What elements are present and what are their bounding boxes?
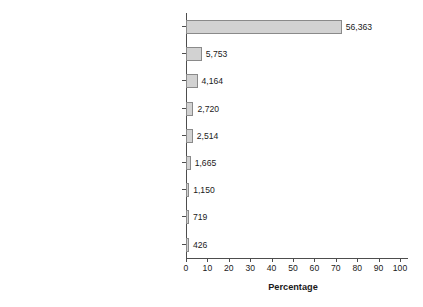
bar-row: Industrial5,753 bbox=[186, 47, 400, 61]
x-axis-tick bbox=[336, 258, 337, 262]
bar-value-label: 56,363 bbox=[346, 20, 372, 34]
bar-row: Personal service (domestic and other)4,1… bbox=[186, 74, 400, 88]
x-axis-tick bbox=[357, 258, 358, 262]
bar bbox=[186, 156, 191, 170]
x-axis-tick bbox=[272, 258, 273, 262]
bar-value-label: 5,753 bbox=[206, 47, 228, 61]
bar-row: Clerks and typists426 bbox=[186, 238, 400, 252]
bar-row: Agricultural56,363 bbox=[186, 20, 400, 34]
bar bbox=[186, 238, 189, 252]
bar-value-label: 426 bbox=[193, 238, 207, 252]
bar bbox=[186, 183, 189, 197]
bar-row: Transport and communication1,665 bbox=[186, 156, 400, 170]
x-axis-title: Percentage bbox=[186, 282, 400, 292]
x-axis-tick bbox=[186, 258, 187, 262]
bar-value-label: 719 bbox=[193, 210, 207, 224]
x-axis-tick bbox=[400, 258, 401, 262]
bar-row: Commercial2,514 bbox=[186, 129, 400, 143]
bar-row: Public administration and defence1,150 bbox=[186, 183, 400, 197]
x-axis-tick bbox=[314, 258, 315, 262]
bar-value-label: 4,164 bbox=[202, 74, 224, 88]
bar bbox=[186, 74, 198, 88]
x-axis-tick-label: 100 bbox=[385, 263, 415, 274]
bar bbox=[186, 47, 202, 61]
bar-row: Other gainful occupations719 bbox=[186, 210, 400, 224]
bar-chart: Agricultural56,363Industrial5,753Persona… bbox=[0, 0, 423, 307]
bar-value-label: 1,150 bbox=[193, 183, 215, 197]
bar-row: Professional occupations2,720 bbox=[186, 102, 400, 116]
bar-value-label: 2,720 bbox=[197, 102, 219, 116]
x-axis-tick bbox=[229, 258, 230, 262]
x-axis-tick bbox=[379, 258, 380, 262]
bar bbox=[186, 20, 342, 34]
x-axis-line bbox=[186, 258, 408, 259]
bar-value-label: 1,665 bbox=[195, 156, 217, 170]
x-axis-tick bbox=[207, 258, 208, 262]
plot-area: Agricultural56,363Industrial5,753Persona… bbox=[186, 13, 400, 258]
bar bbox=[186, 210, 189, 224]
x-axis-tick bbox=[293, 258, 294, 262]
bar bbox=[186, 102, 193, 116]
bar bbox=[186, 129, 193, 143]
bar-value-label: 2,514 bbox=[197, 129, 219, 143]
x-axis-tick bbox=[250, 258, 251, 262]
